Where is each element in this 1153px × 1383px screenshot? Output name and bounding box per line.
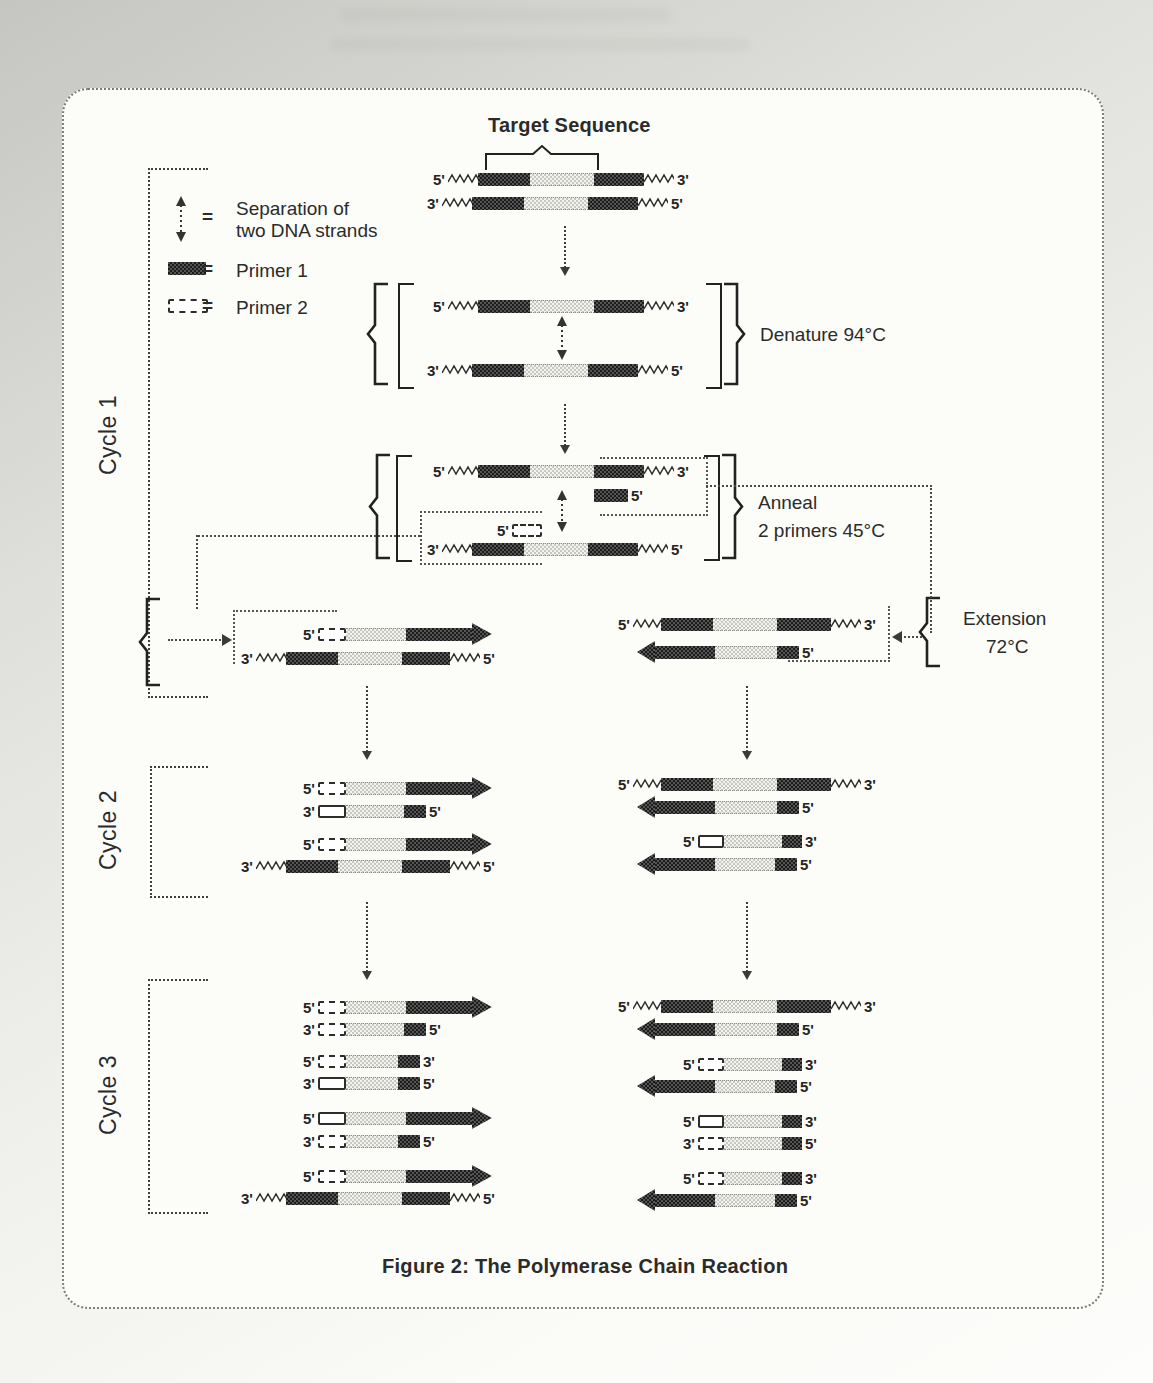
cycle3-label: Cycle 3 <box>95 1025 129 1165</box>
dna-strand: 5' <box>637 643 817 661</box>
primer1-region <box>594 173 644 186</box>
ssdna-zigzag <box>831 616 861 632</box>
denature-right-brace <box>722 282 746 386</box>
primer1-segment <box>404 1023 426 1036</box>
cycle3-bracket <box>148 979 208 1214</box>
primer1-region <box>286 860 338 873</box>
dna-strand: 5'3' <box>300 1052 438 1070</box>
target-region <box>346 1170 406 1183</box>
primer1-region <box>406 1112 472 1125</box>
primer1-segment <box>775 1194 797 1207</box>
primer1-region <box>594 465 644 478</box>
cycle2-bracket <box>150 766 208 898</box>
strand-end-label: 3' <box>427 363 439 378</box>
connector-left-horizontal <box>198 535 420 537</box>
target-region <box>713 618 777 631</box>
connector-right-arrow-line <box>900 636 922 638</box>
strand-end-label: 5' <box>800 857 812 872</box>
strand-end-label: 3' <box>805 1057 817 1072</box>
target-region <box>524 543 588 556</box>
primer1-region <box>402 1192 450 1205</box>
strand-end-label: 3' <box>303 804 315 819</box>
connector-right-horizontal <box>706 485 932 487</box>
dna-strand: 5' <box>300 998 492 1016</box>
target-region <box>713 1000 777 1013</box>
strand-end-label: 5' <box>805 1136 817 1151</box>
dna-strand: 5' <box>300 835 492 853</box>
target-region <box>338 652 402 665</box>
target-region <box>338 1192 402 1205</box>
dna-strand: 5'3' <box>430 170 692 188</box>
target-region <box>346 1055 398 1068</box>
denature-left-brace <box>366 282 390 386</box>
extension-arrowhead-left <box>637 1018 655 1040</box>
primer2-segment <box>698 1115 724 1128</box>
dna-strand: 5'3' <box>680 832 820 850</box>
cycle2-label: Cycle 2 <box>95 760 129 900</box>
target-region <box>715 1023 777 1036</box>
target-region <box>530 300 594 313</box>
strand-end-label: 3' <box>864 617 876 632</box>
extension-arrowhead-left <box>637 1075 655 1097</box>
ssdna-zigzag <box>448 463 478 479</box>
dna-strand: 5' <box>637 1077 815 1095</box>
primer2-segment <box>318 1001 346 1014</box>
ssdna-zigzag <box>256 1190 286 1206</box>
ssdna-zigzag <box>638 541 668 557</box>
primer1-region <box>655 1194 715 1207</box>
extension-arrowhead-right <box>472 833 492 855</box>
strand-end-label: 3' <box>677 464 689 479</box>
primer1-region <box>777 1000 831 1013</box>
extension-label-line2: 72°C <box>986 636 1028 658</box>
primer1-region <box>777 778 831 791</box>
primer1-segment <box>775 1080 797 1093</box>
primer1-region <box>402 652 450 665</box>
primer1-region <box>655 858 715 871</box>
flow-arrow-down <box>746 902 748 972</box>
dna-strand: 3'5' <box>424 194 686 212</box>
strand-end-label: 5' <box>483 651 495 666</box>
target-region <box>724 835 782 848</box>
ssdna-zigzag <box>256 650 286 666</box>
strand-end-label: 5' <box>800 1079 812 1094</box>
target-region <box>530 465 594 478</box>
target-region <box>346 805 404 818</box>
strand-end-label: 5' <box>618 617 630 632</box>
primer1-region <box>472 197 524 210</box>
strand-end-label: 5' <box>671 196 683 211</box>
figure-panel <box>62 88 1104 1309</box>
primer2-segment <box>318 782 346 795</box>
connector-left-vertical <box>196 535 198 609</box>
extension-arrowhead-right <box>472 1107 492 1129</box>
strand-end-label: 3' <box>241 1191 253 1206</box>
flow-arrow-down <box>746 686 748 752</box>
primer1-region <box>286 652 338 665</box>
ssdna-zigzag <box>831 776 861 792</box>
strand-end-label: 3' <box>864 999 876 1014</box>
page-bleedthrough <box>340 8 670 22</box>
target-region <box>346 1135 398 1148</box>
strand-end-label: 3' <box>427 542 439 557</box>
dna-strand: 5' <box>300 1109 492 1127</box>
denature-right-bracket <box>706 283 722 389</box>
dna-strand: 3'5' <box>300 1132 438 1150</box>
primer2-segment <box>318 1112 346 1125</box>
extension-arrowhead-right <box>472 777 492 799</box>
flow-arrow-down <box>366 902 368 972</box>
dna-strand: 5' <box>494 521 542 539</box>
dna-strand: 5'3' <box>430 462 692 480</box>
strand-end-label: 3' <box>683 1136 695 1151</box>
strand-end-label: 5' <box>303 1169 315 1184</box>
strand-end-label: 3' <box>805 834 817 849</box>
primer1-region <box>661 778 713 791</box>
primer1-region <box>406 1001 472 1014</box>
strand-end-label: 3' <box>303 1076 315 1091</box>
figure-caption: Figure 2: The Polymerase Chain Reaction <box>382 1255 788 1278</box>
dna-strand: 5' <box>637 798 817 816</box>
extension-left-brace <box>138 597 162 687</box>
primer1-region <box>588 543 638 556</box>
primer2-segment <box>698 835 724 848</box>
connector-left-arrow-line <box>168 639 224 641</box>
dna-strand: 5'3' <box>680 1055 820 1073</box>
strand-end-label: 5' <box>683 1171 695 1186</box>
